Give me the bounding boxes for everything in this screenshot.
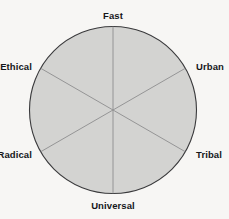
axis-label-radical: Radical [0,149,32,160]
axis-label-ethical: Ethical [0,61,32,72]
axis-label-urban: Urban [196,61,224,72]
axis-label-universal: Universal [91,200,135,211]
wheel-diagram: Fast Urban Tribal Universal Radical Ethi… [0,0,229,219]
wheel-graphic [0,0,229,219]
axis-label-tribal: Tribal [196,149,222,160]
axis-label-fast: Fast [103,10,123,21]
